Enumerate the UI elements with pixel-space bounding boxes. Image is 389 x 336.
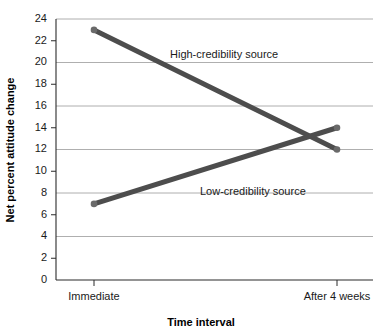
y-axis-title: Net percent attitude change [4, 78, 16, 223]
chart-svg: 24 22 20 18 16 14 12 10 8 6 4 2 0 Immedi… [0, 0, 389, 336]
datapoint-low-credibility-immediate [91, 201, 98, 208]
y-tick-label-16: 16 [35, 99, 47, 111]
y-tick-label-12: 12 [35, 142, 47, 154]
y-tick-label-6: 6 [41, 208, 47, 220]
datapoint-high-credibility-immediate [91, 27, 98, 34]
y-tick-label-24: 24 [35, 12, 47, 24]
y-tick-label-20: 20 [35, 55, 47, 67]
datapoint-low-credibility-after-4-weeks [334, 124, 341, 131]
y-tick-label-0: 0 [41, 273, 47, 285]
x-axis-title: Time interval [167, 316, 235, 328]
y-tick-label-22: 22 [35, 34, 47, 46]
series-annotation-high-credibility: High-credibility source [170, 48, 278, 60]
y-tick-label-2: 2 [41, 251, 47, 263]
y-tick-label-18: 18 [35, 77, 47, 89]
y-tick-label-10: 10 [35, 164, 47, 176]
y-tick-label-8: 8 [41, 186, 47, 198]
attitude-change-line-chart: 24 22 20 18 16 14 12 10 8 6 4 2 0 Immedi… [0, 0, 389, 336]
x-tick-label-immediate: Immediate [68, 290, 119, 302]
series-annotation-low-credibility: Low-credibility source [200, 185, 306, 197]
x-tick-label-after-4-weeks: After 4 weeks [304, 290, 371, 302]
y-tick-label-4: 4 [41, 229, 47, 241]
y-tick-label-14: 14 [35, 121, 47, 133]
datapoint-high-credibility-after-4-weeks [334, 146, 341, 153]
